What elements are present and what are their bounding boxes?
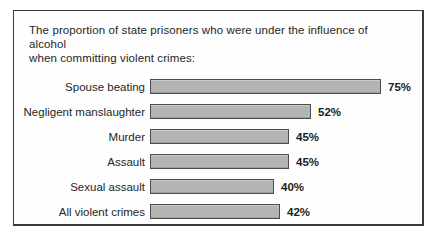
category-label: Negligent manslaughter bbox=[14, 106, 145, 118]
bar-row: All violent crimes 42% bbox=[14, 199, 422, 224]
bar-row: Sexual assault 40% bbox=[14, 174, 422, 199]
bar bbox=[150, 179, 274, 194]
chart-title-line-2: when committing violent crimes: bbox=[29, 51, 408, 65]
bar-row: Spouse beating 75% bbox=[14, 74, 422, 99]
value-label: 45% bbox=[296, 156, 319, 168]
category-label: Assault bbox=[14, 156, 145, 168]
bar bbox=[150, 129, 289, 144]
bar bbox=[150, 204, 280, 219]
bar-row: Negligent manslaughter 52% bbox=[14, 99, 422, 124]
value-label: 42% bbox=[287, 206, 310, 218]
bar-row: Assault 45% bbox=[14, 149, 422, 174]
bar bbox=[150, 154, 289, 169]
bar bbox=[150, 79, 381, 94]
category-label: Sexual assault bbox=[14, 181, 145, 193]
chart-title-line-1: The proportion of state prisoners who we… bbox=[29, 23, 408, 51]
category-label: All violent crimes bbox=[14, 206, 145, 218]
chart-title: The proportion of state prisoners who we… bbox=[29, 23, 408, 65]
bar-chart: Spouse beating 75% Negligent manslaughte… bbox=[14, 74, 422, 224]
value-label: 75% bbox=[388, 81, 411, 93]
category-label: Murder bbox=[14, 131, 145, 143]
chart-frame: The proportion of state prisoners who we… bbox=[13, 10, 424, 226]
category-label: Spouse beating bbox=[14, 81, 145, 93]
bar-row: Murder 45% bbox=[14, 124, 422, 149]
value-label: 40% bbox=[281, 181, 304, 193]
value-label: 52% bbox=[318, 106, 341, 118]
value-label: 45% bbox=[296, 131, 319, 143]
bar bbox=[150, 104, 311, 119]
